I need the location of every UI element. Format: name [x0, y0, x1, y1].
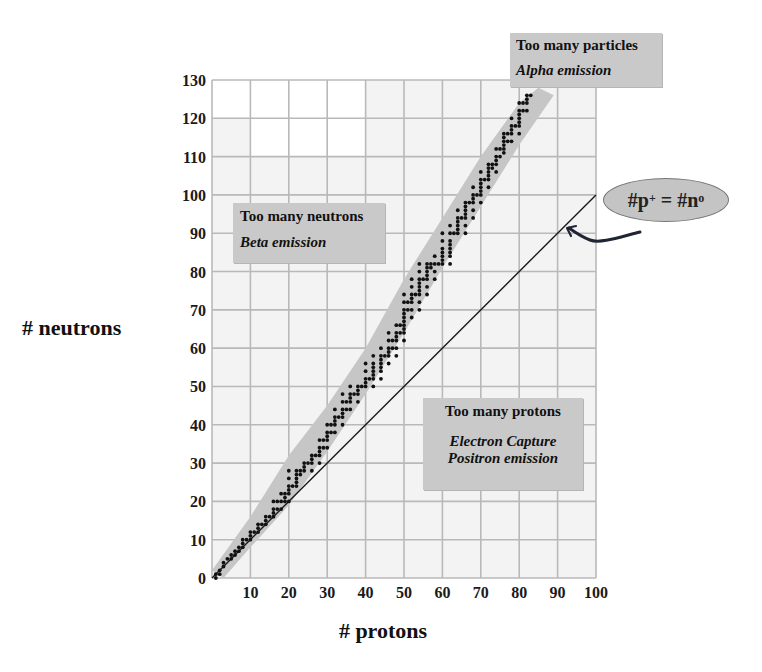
svg-text:10: 10	[242, 584, 258, 601]
note-subtitle: Beta emission	[240, 234, 385, 251]
svg-text:70: 70	[473, 584, 489, 601]
svg-text:40: 40	[358, 584, 374, 601]
note-title: Too many particles	[516, 37, 662, 54]
svg-text:90: 90	[550, 584, 566, 601]
svg-text:100: 100	[584, 584, 608, 601]
svg-text:0: 0	[198, 570, 206, 587]
svg-text:30: 30	[190, 455, 206, 472]
equal-count-bubble: #p+ = #no	[603, 178, 729, 222]
eq-p: #p	[628, 189, 649, 212]
beta-emission-note: Too many neutrons Beta emission	[233, 203, 385, 263]
svg-text:90: 90	[190, 225, 206, 242]
note-title: Too many neutrons	[240, 208, 385, 225]
alpha-emission-note: Too many particles Alpha emission	[510, 33, 662, 87]
svg-text:70: 70	[190, 302, 206, 319]
note-subtitle-1: Electron Capture	[423, 433, 583, 450]
svg-text:40: 40	[190, 417, 206, 434]
svg-text:10: 10	[190, 532, 206, 549]
x-axis-ticks: 102030405060708090100	[242, 584, 608, 601]
svg-text:80: 80	[190, 264, 206, 281]
svg-text:30: 30	[319, 584, 335, 601]
proton-excess-note: Too many protons Electron Capture Positr…	[423, 398, 583, 490]
svg-text:130: 130	[182, 72, 206, 89]
svg-text:100: 100	[182, 187, 206, 204]
eq-p-sup: +	[649, 191, 656, 206]
svg-text:50: 50	[190, 378, 206, 395]
eq-n-sup: o	[698, 191, 704, 206]
eq-mid: =	[656, 189, 677, 212]
svg-text:20: 20	[281, 584, 297, 601]
svg-text:80: 80	[511, 584, 527, 601]
y-axis-title: # neutrons	[22, 315, 122, 340]
eq-n: #n	[677, 189, 698, 212]
note-title: Too many protons	[423, 403, 583, 420]
chart: 102030405060708090100 010203040506070809…	[0, 0, 762, 672]
svg-text:120: 120	[182, 110, 206, 127]
svg-text:60: 60	[190, 340, 206, 357]
x-axis-title: # protons	[339, 618, 428, 643]
note-subtitle: Alpha emission	[516, 62, 662, 79]
svg-text:20: 20	[190, 493, 206, 510]
y-axis-ticks: 0102030405060708090100110120130	[182, 72, 206, 587]
note-subtitle-2: Positron emission	[423, 450, 583, 467]
svg-text:60: 60	[434, 584, 450, 601]
svg-text:110: 110	[183, 149, 206, 166]
svg-text:50: 50	[396, 584, 412, 601]
